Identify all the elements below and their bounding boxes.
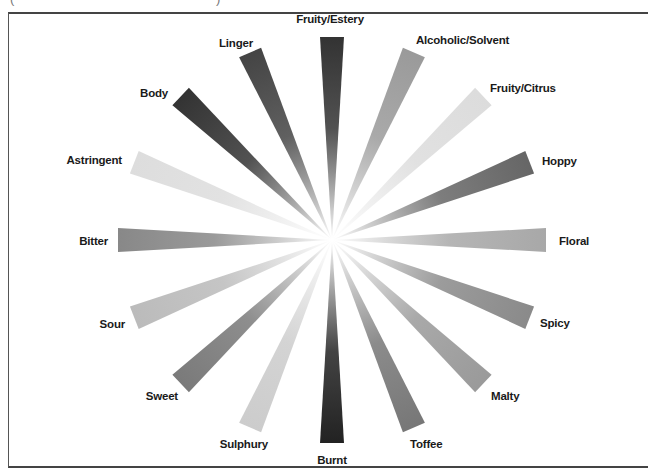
label-malty: Malty [491,390,520,402]
label-sulphury: Sulphury [220,438,269,450]
label-sour: Sour [100,318,126,330]
label-fruity-citrus: Fruity/Citrus [490,82,556,94]
label-fruity-estery: Fruity/Estery [296,13,365,25]
label-floral: Floral [559,235,589,247]
label-burnt: Burnt [317,454,347,466]
spoke-fruity-estery [320,37,344,240]
label-body: Body [140,87,169,99]
label-sweet: Sweet [146,390,179,402]
label-hoppy: Hoppy [542,155,578,167]
label-toffee: Toffee [410,438,442,450]
spoke-burnt [320,240,344,443]
spokes-group [118,37,546,443]
label-astringent: Astringent [66,154,122,166]
label-spicy: Spicy [540,317,570,329]
label-alcoholic-solvent: Alcoholic/Solvent [416,34,509,46]
label-linger: Linger [219,37,254,49]
spoke-fruity-citrus [332,88,492,240]
label-bitter: Bitter [79,235,109,247]
spoke-floral [332,228,546,252]
spoke-sweet [172,240,332,392]
spoke-malty [332,240,492,392]
spoke-bitter [118,228,332,252]
spoke-body [172,88,332,240]
